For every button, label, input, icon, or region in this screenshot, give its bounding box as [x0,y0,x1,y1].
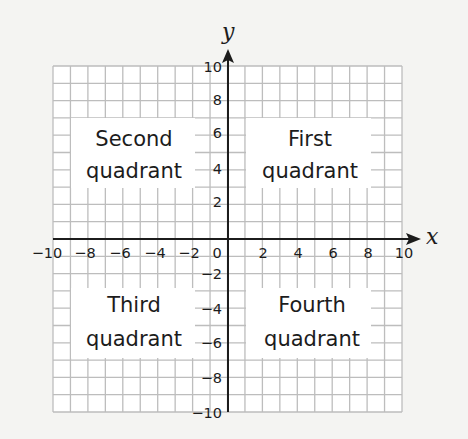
x-tick-label: −8 [74,245,95,261]
y-tick-label: 10 [204,59,222,75]
y-axis-label: y [221,19,235,44]
third-quadrant-line2: quadrant [86,327,182,351]
y-tick-label: 4 [213,161,222,177]
y-tick-label: −8 [201,370,222,386]
y-tick-label: −6 [201,335,222,351]
x-tick-label: −6 [109,245,130,261]
y-tick-label: −2 [201,266,222,282]
y-tick-label: 2 [213,194,222,210]
x-tick-label: 10 [395,245,413,261]
first-quadrant-line1: First [288,127,332,151]
fourth-quadrant-line2: quadrant [264,327,360,351]
coordinate-plane: x y −10 −8 −6 −4 −2 0 2 4 6 8 10 10 8 6 … [0,0,468,439]
x-tick-label: 6 [328,245,337,261]
y-tick-label: 8 [213,92,222,108]
x-tick-label: 4 [293,245,302,261]
y-tick-label: 6 [213,125,222,141]
x-axis-label: x [426,224,439,249]
x-tick-label: −4 [144,245,165,261]
x-tick-label: 8 [363,245,372,261]
third-quadrant-line1: Third [106,293,161,317]
x-tick-label: −10 [32,245,63,261]
x-tick-label: 0 [212,245,221,261]
y-tick-label: −10 [191,405,222,421]
second-quadrant-line1: Second [95,127,172,151]
y-tick-label: −4 [201,301,222,317]
first-quadrant-line2: quadrant [262,159,358,183]
x-tick-label: −2 [178,245,199,261]
fourth-quadrant-line1: Fourth [278,293,346,317]
x-tick-label: 2 [258,245,267,261]
second-quadrant-line2: quadrant [86,159,182,183]
